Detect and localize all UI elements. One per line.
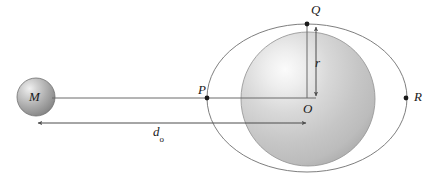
label-distance-d: do: [153, 125, 164, 142]
label-mass-M: M: [29, 90, 40, 103]
label-point-Q: Q: [311, 3, 320, 16]
point-Q-dot: [305, 22, 310, 27]
label-radius-r: r: [315, 56, 320, 69]
label-center-O: O: [303, 102, 312, 115]
large-sphere: [241, 32, 375, 166]
physics-diagram-figure: M P Q R O r do: [0, 0, 439, 181]
label-point-P: P: [198, 83, 206, 96]
label-point-R: R: [414, 90, 422, 103]
point-R-dot: [404, 96, 409, 101]
diagram-canvas: [0, 0, 439, 181]
label-distance-symbol: d: [153, 124, 160, 139]
label-distance-subscript: o: [160, 134, 165, 144]
